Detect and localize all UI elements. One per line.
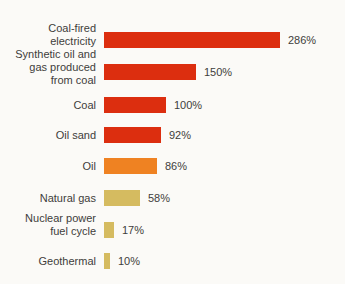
chart-row: Geothermal10% — [0, 253, 140, 269]
bar — [104, 64, 196, 80]
value-label: 100% — [174, 99, 202, 111]
chart-row: Oil sand92% — [0, 127, 191, 143]
category-label: Synthetic oil and gas produced from coal — [0, 48, 96, 87]
chart-row: Coal-fired electricity286% — [0, 32, 316, 48]
chart-row: Nuclear power fuel cycle17% — [0, 222, 144, 238]
bar — [104, 222, 114, 238]
value-label: 92% — [169, 129, 191, 141]
value-label: 58% — [148, 192, 170, 204]
category-label: Oil sand — [0, 129, 96, 142]
value-label: 17% — [122, 224, 144, 236]
category-label: Nuclear power fuel cycle — [0, 212, 96, 238]
category-label: Oil — [0, 160, 96, 173]
category-label: Coal — [0, 99, 96, 112]
chart-row: Oil86% — [0, 158, 187, 174]
chart-row: Natural gas58% — [0, 190, 170, 206]
bar — [104, 97, 166, 113]
value-label: 286% — [288, 34, 316, 46]
bar — [104, 127, 161, 143]
category-label: Natural gas — [0, 192, 96, 205]
bar — [104, 32, 280, 48]
bar — [104, 190, 140, 206]
chart-row: Synthetic oil and gas produced from coal… — [0, 64, 232, 80]
category-label: Geothermal — [0, 255, 96, 268]
category-label: Coal-fired electricity — [0, 22, 96, 48]
chart-row: Coal100% — [0, 97, 202, 113]
value-label: 86% — [165, 160, 187, 172]
bar — [104, 158, 157, 174]
energy-emissions-bar-chart: Coal-fired electricity286%Synthetic oil … — [0, 0, 345, 284]
bar — [104, 253, 110, 269]
value-label: 10% — [118, 255, 140, 267]
value-label: 150% — [204, 66, 232, 78]
